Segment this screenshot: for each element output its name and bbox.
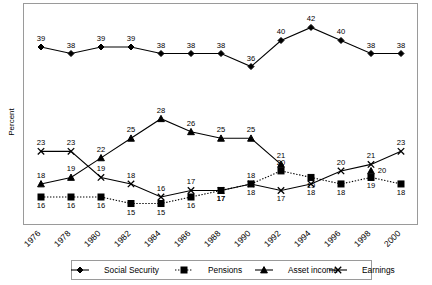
- data-point-label: 23: [37, 138, 45, 147]
- data-point-marker: [38, 194, 44, 200]
- data-point-label: 40: [337, 27, 345, 36]
- data-point-label: 16: [187, 201, 195, 210]
- data-point-label: 19: [67, 164, 75, 173]
- data-point-label: 18: [247, 188, 255, 197]
- data-point-label: 36: [247, 54, 255, 63]
- data-point-label: 18: [337, 188, 345, 197]
- y-axis-title: Percent: [7, 107, 16, 135]
- data-point-label: 18: [37, 171, 45, 180]
- data-point-label: 28: [157, 106, 165, 115]
- data-point-label: 15: [157, 208, 165, 217]
- data-point-label: 22: [97, 145, 105, 154]
- data-point-marker: [98, 194, 104, 200]
- data-point-label: 38: [157, 41, 165, 50]
- data-point-label: 39: [127, 34, 135, 43]
- legend-label: Earnings: [362, 265, 395, 275]
- data-point-label: 25: [127, 125, 135, 134]
- data-point-label: 38: [367, 41, 375, 50]
- data-point-label: 19: [97, 164, 105, 173]
- data-point-label: 38: [187, 41, 195, 50]
- data-point-label: 20: [378, 166, 386, 175]
- data-point-marker: [338, 181, 344, 187]
- data-point-label: 16: [37, 201, 45, 210]
- data-point-label: 25: [247, 125, 255, 134]
- data-point-label: 17: [277, 194, 285, 203]
- data-point-label: 16: [67, 201, 75, 210]
- legend-label: Social Security: [104, 265, 160, 275]
- data-point-label: 18: [397, 188, 405, 197]
- data-point-marker: [368, 174, 374, 180]
- legend-item-pensions[interactable]: Pensions: [175, 265, 242, 275]
- data-point-label: 25: [217, 125, 225, 134]
- data-point-marker: [188, 194, 194, 200]
- data-point-marker: [68, 194, 74, 200]
- legend-label: Pensions: [208, 265, 242, 275]
- data-point-label: 18: [127, 171, 135, 180]
- data-point-label: 17: [187, 177, 195, 186]
- data-point-label: 38: [217, 41, 225, 50]
- data-point-marker: [278, 168, 284, 174]
- data-point-marker: [398, 181, 404, 187]
- data-point-label: 17: [217, 194, 225, 203]
- data-point-marker: [308, 174, 314, 180]
- data-point-label: 16: [97, 201, 105, 210]
- data-point-label: 16: [157, 184, 165, 193]
- data-point-label: 23: [397, 138, 405, 147]
- data-point-marker: [128, 201, 134, 207]
- data-point-label: 38: [67, 41, 75, 50]
- line-chart: Percent 39383939383838364042403838161616…: [0, 0, 432, 285]
- data-point-label: 38: [397, 41, 405, 50]
- legend-marker-square-icon: [181, 267, 187, 273]
- data-point-label: 21: [277, 151, 285, 160]
- data-point-label: 21: [367, 151, 375, 160]
- data-point-marker: [158, 201, 164, 207]
- chart-svg: Percent 39383939383838364042403838161616…: [0, 0, 432, 285]
- data-point-label: 18: [307, 188, 315, 197]
- data-point-label: 39: [37, 34, 45, 43]
- data-point-label: 23: [67, 138, 75, 147]
- data-point-label: 26: [187, 119, 195, 128]
- data-point-label: 42: [307, 14, 315, 23]
- data-point-label: 15: [127, 208, 135, 217]
- y-axis-title-text: Percent: [7, 107, 16, 135]
- data-point-label: 18: [247, 171, 255, 180]
- data-point-label: 40: [277, 27, 285, 36]
- data-point-label: 19: [367, 181, 375, 190]
- data-point-label: 20: [337, 158, 345, 167]
- data-point-label: 39: [97, 34, 105, 43]
